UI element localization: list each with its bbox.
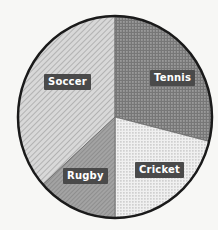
pie-slice-label-soccer: Soccer <box>44 74 91 90</box>
pie-chart: Soccer Tennis Cricket Rugby <box>0 0 218 230</box>
pie-slice-label-cricket: Cricket <box>135 162 184 178</box>
pie-chart-svg <box>0 0 218 230</box>
pie-slice-label-tennis: Tennis <box>150 70 195 86</box>
pie-slice-label-rugby: Rugby <box>63 168 108 184</box>
